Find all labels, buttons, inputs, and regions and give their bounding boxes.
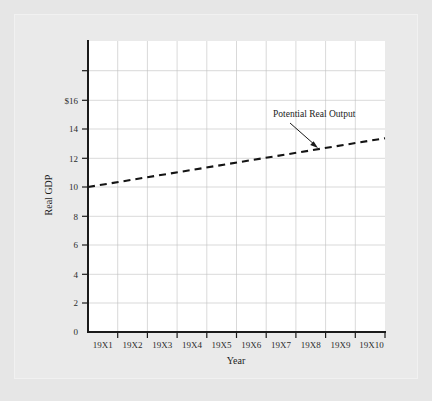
x-tick-label: 19X7 — [271, 340, 291, 350]
y-tick-label: $16 — [65, 96, 79, 106]
y-tick-label: 4 — [74, 270, 79, 280]
x-tick-label: 19X5 — [212, 340, 232, 350]
y-tick-label: 6 — [74, 240, 79, 250]
x-tick-label: 19X9 — [330, 340, 350, 350]
y-tick-label: 10 — [69, 182, 79, 192]
x-tick-label: 19X2 — [123, 340, 143, 350]
y-axis-title: Real GDP — [43, 174, 54, 215]
x-axis-title: Year — [227, 355, 246, 366]
x-tick-label: 19X4 — [182, 340, 202, 350]
y-tick-label: 8 — [74, 212, 79, 222]
y-tick-label: 14 — [69, 124, 79, 134]
y-axis-tick-labels: $16 14 12 10 8 6 4 2 0 — [65, 96, 79, 338]
x-tick-label: 19X10 — [359, 340, 384, 350]
x-tick-label: 19X1 — [93, 340, 113, 350]
x-tick-label: 19X3 — [152, 340, 172, 350]
x-tick-label: 19X8 — [301, 340, 321, 350]
x-axis-tick-labels: 19X1 19X2 19X3 19X4 19X5 19X6 19X7 19X8 … — [93, 340, 384, 350]
annotation-potential-real-output: Potential Real Output — [273, 109, 356, 119]
y-tick-label: 0 — [74, 327, 79, 337]
y-tick-label: 2 — [74, 298, 79, 308]
line-chart: $16 14 12 10 8 6 4 2 0 19X1 19X2 19X3 19… — [0, 0, 432, 401]
y-tick-label: 12 — [69, 154, 78, 164]
figure-root: $16 14 12 10 8 6 4 2 0 19X1 19X2 19X3 19… — [0, 0, 432, 401]
x-tick-label: 19X6 — [241, 340, 261, 350]
